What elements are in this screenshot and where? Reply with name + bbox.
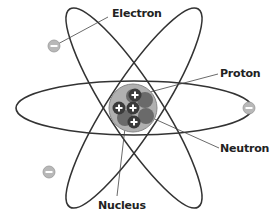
nucleus-label: Nucleus bbox=[98, 199, 146, 212]
proton bbox=[127, 102, 140, 115]
proton bbox=[128, 116, 141, 129]
nucleus-leader bbox=[117, 128, 125, 196]
electron-label: Electron bbox=[112, 7, 162, 20]
proton-label: Proton bbox=[220, 67, 261, 80]
electron bbox=[43, 166, 55, 178]
electron bbox=[48, 40, 60, 52]
proton-leader bbox=[150, 74, 218, 92]
proton bbox=[113, 102, 126, 115]
neutron-label: Neutron bbox=[220, 142, 269, 155]
electron-leader bbox=[56, 17, 108, 45]
atom-diagram bbox=[0, 0, 279, 219]
electron bbox=[243, 102, 255, 114]
nucleus bbox=[109, 84, 157, 132]
proton bbox=[129, 89, 142, 102]
